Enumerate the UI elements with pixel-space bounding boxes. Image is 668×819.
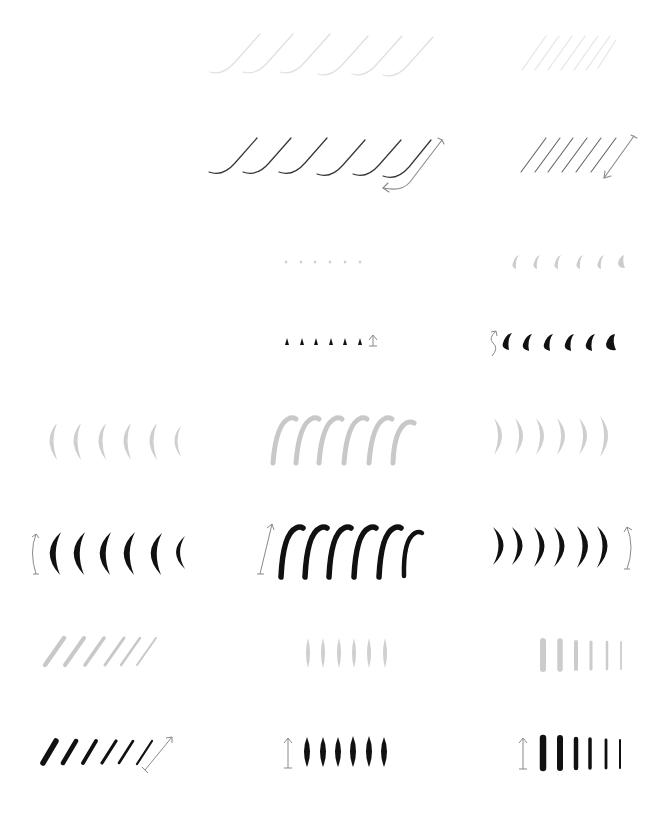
f-stroke-trace-strokes [268, 413, 423, 468]
hairline-diagonal-trace-strokes [518, 30, 618, 75]
up-right-arrow-icon [142, 737, 172, 773]
drill-f-stroke [255, 522, 425, 582]
drill-teardrop-trace [505, 252, 635, 274]
drill-hairline-curve [205, 130, 450, 200]
dot-trace-strokes [280, 255, 370, 269]
vertical-bar-trace-strokes [535, 638, 630, 674]
hairline-curve-trace-strokes [205, 30, 435, 80]
teardrop-strokes [488, 328, 638, 360]
up-arrow-icon [284, 738, 292, 768]
dot-strokes [280, 333, 380, 349]
drill-dot-trace [280, 255, 370, 269]
up-arrow-icon [519, 738, 527, 769]
hairline-diagonal-strokes [518, 132, 643, 187]
right-crescent-trace-strokes [490, 415, 620, 460]
drill-f-stroke-trace [268, 413, 423, 468]
curved-vertical-arrow-icon [624, 527, 632, 569]
diagonal-trace-strokes [40, 634, 160, 669]
left-crescent-trace-strokes [40, 420, 190, 465]
drill-diagonal [38, 733, 178, 775]
drill-right-crescent-trace [490, 415, 620, 460]
drill-diagonal-trace [40, 634, 160, 669]
lens-trace-strokes [303, 636, 393, 672]
right-crescent-strokes [490, 525, 640, 575]
drill-dot [280, 333, 380, 349]
diagonal-strokes [38, 733, 178, 775]
curved-arrow-icon [491, 331, 497, 356]
down-left-arrow-icon [604, 135, 637, 178]
drill-left-crescent [25, 530, 195, 580]
drill-hairline-curve-trace [205, 30, 435, 80]
hook-arrow-icon [205, 130, 450, 200]
curved-vertical-arrow-icon [32, 534, 39, 574]
teardrop-trace-strokes [505, 252, 635, 274]
drill-teardrop [488, 328, 638, 360]
drill-right-crescent [490, 525, 640, 575]
drill-lens-trace [303, 636, 393, 672]
lens-strokes [280, 734, 395, 774]
left-crescent-strokes [25, 530, 195, 580]
drill-left-crescent-trace [40, 420, 190, 465]
f-stroke-strokes [255, 522, 425, 582]
drill-vertical-bar [515, 734, 630, 774]
up-arrow-icon [369, 335, 377, 346]
drill-vertical-bar-trace [535, 638, 630, 674]
drill-hairline-diagonal [518, 132, 643, 187]
drill-lens [280, 734, 395, 774]
vertical-bar-strokes [515, 734, 630, 774]
drill-hairline-diagonal-trace [518, 30, 618, 75]
up-arrow-icon [257, 524, 274, 574]
